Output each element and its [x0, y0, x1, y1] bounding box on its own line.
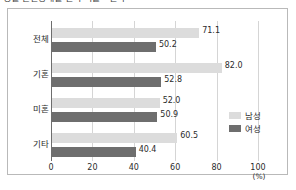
bar-row: 60.5: [52, 133, 259, 143]
figure-caption-strip: 성별 혼인상태별 인식 비율 - 결과: [0, 0, 296, 7]
bar-row: 82.0: [52, 63, 259, 73]
bar-row: 52.0: [52, 98, 259, 108]
bar-row: 40.4: [52, 147, 259, 157]
bar-여성-기타: [52, 147, 136, 157]
chart-legend: 남성여성: [229, 109, 287, 135]
legend-swatch-icon: [229, 112, 241, 119]
bar-value-label: 60.5: [180, 131, 198, 141]
bar-group: 60.540.4: [52, 126, 259, 161]
y-axis-tick-labels: 전체기혼미혼기타: [10, 21, 49, 161]
figure-container: 성별 혼인상태별 인식 비율 - 결과 전체기혼미혼기타 71.150.282.…: [0, 0, 296, 190]
bar-row: 50.2: [52, 42, 259, 52]
bar-value-label: 52.0: [163, 96, 181, 106]
bar-여성-기혼: [52, 77, 161, 87]
bar-남성-미혼: [52, 98, 160, 108]
bar-value-label: 50.2: [159, 40, 177, 50]
bar-value-label: 82.0: [225, 61, 243, 71]
bar-row: 71.1: [52, 28, 259, 38]
bar-여성-전체: [52, 42, 156, 52]
legend-label: 남성: [245, 111, 261, 121]
bar-value-label: 71.1: [202, 26, 220, 36]
bar-group: 71.150.2: [52, 21, 259, 56]
x-axis-unit-label: (%): [253, 172, 266, 181]
x-axis-tick: 60: [170, 163, 180, 173]
x-axis-tick: 0: [48, 163, 53, 173]
figure-caption: 성별 혼인상태별 인식 비율 - 결과: [3, 0, 125, 4]
bar-value-label: 50.9: [160, 110, 178, 120]
legend-swatch-icon: [229, 125, 241, 132]
bar-group: 52.050.9: [52, 91, 259, 126]
legend-label: 여성: [245, 124, 261, 134]
bar-여성-미혼: [52, 112, 157, 122]
bar-row: 50.9: [52, 112, 259, 122]
legend-item-남성[interactable]: 남성: [229, 109, 287, 122]
plot-area: 71.150.282.052.852.050.960.540.4: [51, 21, 259, 161]
x-axis-tick: 40: [129, 163, 139, 173]
y-axis-tick-미혼: 미혼: [13, 104, 49, 114]
bar-row: 52.8: [52, 77, 259, 87]
y-axis-tick-전체: 전체: [13, 34, 49, 44]
chart-frame: 전체기혼미혼기타 71.150.282.052.852.050.960.540.…: [7, 8, 288, 175]
bar-value-label: 40.4: [139, 145, 157, 155]
bar-남성-기타: [52, 133, 177, 143]
legend-item-여성[interactable]: 여성: [229, 122, 287, 135]
x-axis-tick: 80: [212, 163, 222, 173]
x-axis-tick-labels: 020406080100: [51, 163, 259, 175]
bar-group: 82.052.8: [52, 56, 259, 91]
y-axis-tick-기혼: 기혼: [13, 69, 49, 79]
x-axis-tick: 20: [87, 163, 97, 173]
y-axis-tick-기타: 기타: [13, 139, 49, 149]
bar-남성-기혼: [52, 63, 222, 73]
bar-value-label: 52.8: [164, 75, 182, 85]
bar-남성-전체: [52, 28, 199, 38]
